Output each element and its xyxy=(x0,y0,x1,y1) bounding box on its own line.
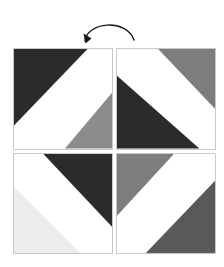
tile-bottom-left-artwork xyxy=(14,154,112,254)
tile-bottom-right-artwork xyxy=(117,154,215,254)
tile-top-left[interactable] xyxy=(13,48,113,150)
tile-bottom-right[interactable] xyxy=(116,153,216,255)
tile-top-right[interactable] xyxy=(116,48,216,150)
tile-bottom-left[interactable] xyxy=(13,153,113,255)
tile-grid xyxy=(13,48,216,254)
tile-top-left-artwork xyxy=(14,49,112,149)
curved-rotation-arrow-icon xyxy=(74,10,144,50)
tile-top-right-artwork xyxy=(117,49,215,149)
puzzle-figure xyxy=(0,0,224,267)
arrow-arc-path xyxy=(85,25,134,41)
